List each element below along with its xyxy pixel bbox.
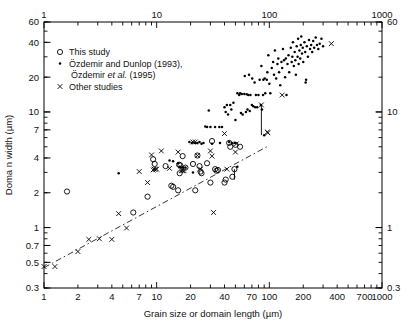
y-axis-tick-label: 7 [34, 124, 39, 135]
data-point-filled-dot [298, 49, 301, 52]
y-axis-tick-label: 1 [34, 222, 39, 233]
data-point-filled-dot [268, 83, 271, 86]
data-point-filled-dot [316, 44, 319, 47]
data-point-filled-dot [285, 57, 288, 60]
data-point-filled-dot [219, 142, 222, 145]
data-point-filled-dot [282, 48, 285, 51]
data-point-filled-dot [311, 51, 314, 54]
data-point-filled-dot [188, 141, 191, 144]
data-point-filled-dot [272, 61, 275, 64]
data-point-filled-dot [248, 110, 251, 113]
y-axis-tick-label: 0.5 [26, 257, 39, 268]
data-point-filled-dot [198, 141, 201, 144]
data-point-filled-dot [266, 71, 269, 74]
y-axis-tick-label: 2 [34, 187, 39, 198]
data-point-filled-dot [288, 71, 291, 74]
data-point-filled-dot [245, 111, 248, 114]
data-point-filled-dot [320, 37, 323, 40]
data-point-filled-dot [228, 141, 231, 144]
data-point-filled-dot [296, 56, 299, 59]
data-point-filled-dot [269, 92, 272, 95]
data-point-filled-dot [270, 67, 273, 70]
data-point-filled-dot [295, 73, 298, 76]
data-point-filled-dot [218, 126, 221, 129]
x-axis-tick-label: 40 [219, 291, 230, 302]
data-point-filled-dot [310, 44, 313, 47]
data-point-filled-dot [168, 159, 171, 162]
data-point-filled-dot [285, 94, 288, 97]
data-point-filled-dot [266, 78, 269, 81]
data-point-filled-dot [275, 77, 278, 80]
y-axis-tick-label: 0.7 [26, 240, 39, 251]
y-axis-tick-label: 40 [28, 37, 39, 48]
legend-label-other-studies: Other studies [69, 82, 123, 92]
data-point-filled-dot [202, 142, 205, 145]
data-point-filled-dot [226, 104, 229, 107]
y-axis-right-tick-label: 10 [387, 106, 398, 117]
data-point-filled-dot [279, 84, 282, 87]
y-axis-tick-label: 0.3 [26, 282, 39, 293]
x-axis-top-tick-label: 1 [41, 9, 46, 20]
data-point-filled-dot [293, 65, 296, 68]
data-point-filled-dot [292, 41, 295, 44]
data-point-filled-dot [281, 67, 284, 70]
data-point-filled-dot [214, 126, 217, 129]
x-axis-tick-label: 100 [261, 291, 277, 302]
data-point-filled-dot [263, 77, 266, 80]
data-point-filled-dot [299, 57, 302, 60]
data-point-filled-dot [249, 94, 252, 97]
data-point-filled-dot [221, 126, 224, 129]
data-point-filled-dot [302, 46, 305, 49]
y-axis-tick-label: 20 [28, 72, 39, 83]
data-point-filled-dot [300, 35, 303, 38]
data-point-filled-dot [117, 172, 120, 175]
y-axis-tick-label: 4 [34, 152, 39, 163]
data-point-filled-dot [211, 143, 214, 146]
data-point-filled-dot [294, 59, 297, 62]
data-point-filled-dot [303, 41, 306, 44]
data-point-filled-dot [247, 94, 250, 97]
data-point-filled-dot [290, 46, 293, 49]
data-point-filled-dot [309, 48, 312, 51]
data-point-filled-dot [234, 119, 237, 122]
data-point-filled-dot [267, 54, 270, 57]
data-point-filled-dot [260, 65, 263, 68]
data-point-filled-dot [274, 49, 277, 52]
data-point-filled-dot [208, 109, 211, 112]
data-point-filled-dot [304, 81, 307, 84]
x-axis-tick-label: 70 [247, 291, 258, 302]
data-point-filled-dot [243, 93, 246, 96]
data-point-filled-dot [236, 166, 239, 169]
data-point-filled-dot [255, 94, 258, 97]
legend-label-this-study: This study [69, 47, 111, 57]
data-point-filled-dot [273, 73, 276, 76]
data-point-filled-dot [253, 81, 256, 84]
data-point-filled-dot [256, 106, 259, 109]
figure-container: 1247102040701002004007001000110100100060… [0, 0, 416, 323]
data-point-filled-dot [172, 160, 175, 163]
data-point-filled-dot [236, 92, 239, 95]
data-point-filled-dot [232, 102, 235, 105]
x-axis-tick-label: 20 [185, 291, 196, 302]
data-point-filled-dot [262, 94, 265, 97]
data-point-filled-dot [308, 39, 311, 42]
data-point-filled-dot [295, 45, 298, 48]
data-point-filled-dot [59, 62, 62, 65]
y-axis-title: Doma n width (µm) [3, 115, 14, 195]
data-point-filled-dot [304, 51, 307, 54]
data-point-filled-dot [192, 171, 195, 174]
data-point-filled-dot [302, 61, 305, 64]
data-point-filled-dot [227, 113, 230, 116]
data-point-filled-dot [305, 78, 308, 81]
x-axis-tick-label: 200 [295, 291, 311, 302]
x-axis-tick-label: 10 [151, 291, 162, 302]
scatter-plot: 1247102040701002004007001000110100100060… [0, 0, 416, 323]
data-point-filled-dot [248, 73, 251, 76]
data-point-filled-dot [299, 44, 302, 47]
x-axis-title: Grain size or domain length (µm) [144, 308, 283, 319]
data-point-filled-dot [231, 142, 234, 145]
data-point-filled-dot [313, 46, 316, 49]
data-point-filled-dot [318, 42, 321, 45]
data-point-filled-dot [177, 162, 180, 165]
y-axis-right-tick-label: 0.3 [387, 282, 400, 293]
